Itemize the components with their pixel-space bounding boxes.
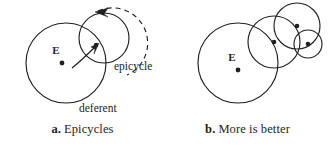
deferent-label: deferent	[79, 102, 117, 114]
earth-label: E	[228, 51, 235, 63]
earth-dot	[60, 61, 65, 66]
epicycle-figure: E epicycle deferent a.Epicycles E	[0, 0, 330, 150]
caption-b-text: More is better	[218, 122, 290, 136]
planet-dot	[94, 43, 98, 47]
deferent-circle	[198, 23, 278, 103]
panel-epicycles: E epicycle deferent a.Epicycles	[0, 0, 165, 150]
caption-panel-a: a.Epicycles	[0, 122, 165, 137]
panel-more-is-better: E b.More is better	[165, 0, 330, 150]
caption-b-key: b.	[205, 122, 215, 136]
earth-dot	[236, 68, 241, 73]
epicycle-center-dot	[272, 40, 277, 45]
caption-a-key: a.	[51, 122, 61, 136]
epicycle-label: epicycle	[114, 60, 152, 73]
caption-a-text: Epicycles	[64, 122, 114, 136]
deferent-circle	[26, 23, 106, 103]
caption-panel-b: b.More is better	[165, 122, 330, 137]
epicycle-center-dot	[306, 42, 311, 47]
earth-label: E	[52, 44, 59, 56]
epicycle-center-dot	[295, 24, 300, 29]
radius-arrow-line	[72, 45, 97, 68]
